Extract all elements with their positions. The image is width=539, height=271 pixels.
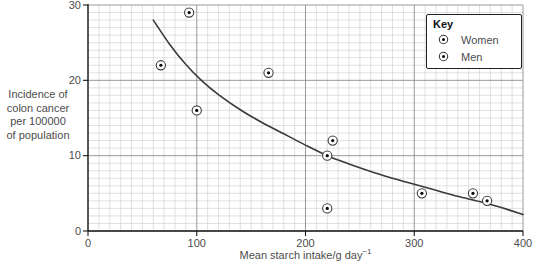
data-point-marker bbox=[156, 61, 165, 70]
svg-text:100: 100 bbox=[188, 237, 206, 249]
legend-key-box: Key WomenMen bbox=[426, 14, 522, 69]
data-point-marker bbox=[192, 106, 201, 115]
svg-text:0: 0 bbox=[85, 237, 91, 249]
legend-title: Key bbox=[433, 18, 521, 31]
data-point-marker bbox=[483, 196, 492, 205]
svg-text:0: 0 bbox=[75, 225, 81, 237]
y-axis-label: Incidence of colon cancer per 100000 of … bbox=[1, 88, 75, 142]
circle-dot-icon bbox=[438, 51, 449, 62]
svg-text:20: 20 bbox=[69, 74, 81, 86]
svg-text:30: 30 bbox=[69, 0, 81, 11]
data-point-marker bbox=[185, 8, 194, 17]
x-tick-labels: 0100200300400 bbox=[85, 237, 532, 249]
circle-dot-icon bbox=[438, 34, 449, 45]
data-point-marker bbox=[328, 136, 337, 145]
key-entry-women: Women bbox=[433, 31, 521, 48]
svg-text:300: 300 bbox=[405, 237, 423, 249]
key-entry-label: Men bbox=[461, 51, 482, 63]
svg-text:200: 200 bbox=[296, 237, 314, 249]
legend-entries: WomenMen bbox=[433, 31, 521, 65]
data-point-marker bbox=[264, 68, 273, 77]
svg-text:10: 10 bbox=[69, 149, 81, 161]
x-axis-label-superscript: −1 bbox=[362, 247, 371, 256]
x-axis-label-text: Mean starch intake/g day bbox=[239, 249, 362, 261]
scatter-chart-figure: 01002003004000102030 Incidence of colon … bbox=[0, 0, 539, 271]
x-axis-label: Mean starch intake/g day−1 bbox=[88, 249, 523, 261]
key-entry-label: Women bbox=[461, 34, 499, 46]
data-point-marker bbox=[468, 189, 477, 198]
svg-text:400: 400 bbox=[514, 237, 532, 249]
data-point-marker bbox=[417, 189, 426, 198]
data-point-marker bbox=[323, 204, 332, 213]
data-point-marker bbox=[323, 151, 332, 160]
key-entry-men: Men bbox=[433, 48, 521, 65]
